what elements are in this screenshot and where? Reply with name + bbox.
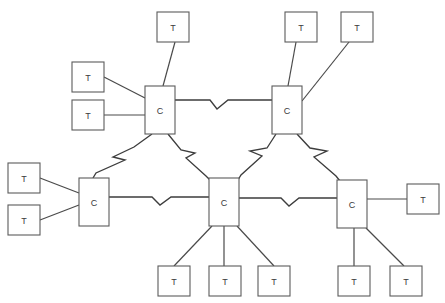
node-label: T	[403, 277, 409, 287]
node-label: C	[284, 106, 291, 116]
node-t-bottom-e[interactable]: T	[390, 266, 422, 296]
node-label: T	[170, 23, 176, 33]
node-c-left[interactable]: C	[79, 178, 109, 226]
link-t-top-right-a	[288, 42, 296, 86]
node-label: T	[21, 216, 27, 226]
node-label: C	[91, 198, 98, 208]
node-label: C	[221, 198, 228, 208]
trunk-center-to-right	[239, 198, 337, 206]
node-label: T	[171, 277, 177, 287]
node-label: T	[420, 195, 426, 205]
node-label: T	[271, 277, 277, 287]
link-t-left-a	[40, 178, 79, 193]
node-t-bottom-d[interactable]: T	[338, 266, 370, 296]
link-t-upper-left-a	[104, 77, 145, 98]
trunk-upper-left-to-upper-right	[175, 100, 272, 109]
node-t-bottom-c[interactable]: T	[258, 266, 290, 296]
node-label: T	[351, 277, 357, 287]
link-t-top-center	[163, 42, 175, 86]
trunk-left-to-center	[109, 197, 209, 205]
node-label: T	[21, 174, 27, 184]
diagram-canvas: C C C C C T T	[0, 0, 445, 303]
node-t-top-center[interactable]: T	[157, 12, 189, 42]
node-label: T	[222, 277, 228, 287]
node-t-left-a[interactable]: T	[8, 163, 40, 193]
link-t-bottom-e	[366, 228, 404, 266]
node-t-bottom-a[interactable]: T	[158, 266, 190, 296]
node-c-upper-left[interactable]: C	[145, 86, 175, 134]
link-t-bottom-a	[174, 226, 212, 266]
node-c-center[interactable]: C	[209, 178, 239, 226]
node-label: C	[157, 106, 164, 116]
node-label: T	[85, 73, 91, 83]
node-t-left-b[interactable]: T	[8, 205, 40, 235]
node-c-right[interactable]: C	[337, 180, 367, 228]
trunk-upper-left-to-center	[168, 134, 210, 180]
trunk-upper-left-to-left	[93, 134, 152, 178]
node-c-upper-right[interactable]: C	[272, 86, 302, 134]
trunk-upper-right-to-center	[238, 134, 276, 180]
link-t-bottom-c	[237, 226, 274, 266]
link-t-top-right-b	[302, 42, 349, 101]
node-label: T	[354, 23, 360, 33]
trunk-upper-right-to-right	[297, 134, 340, 181]
node-label: T	[298, 23, 304, 33]
node-t-top-right-a[interactable]: T	[285, 12, 317, 42]
node-label: T	[85, 111, 91, 121]
node-t-upper-left-b[interactable]: T	[72, 100, 104, 130]
network-topology-diagram: C C C C C T T	[0, 0, 445, 303]
node-label: C	[349, 200, 356, 210]
node-t-bottom-b[interactable]: T	[209, 266, 241, 296]
node-t-right[interactable]: T	[407, 184, 439, 214]
link-t-left-b	[40, 205, 79, 220]
node-t-top-right-b[interactable]: T	[341, 12, 373, 42]
node-t-upper-left-a[interactable]: T	[72, 62, 104, 92]
